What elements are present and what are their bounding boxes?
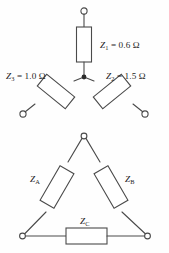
delta-label-zb: ZB xyxy=(125,174,135,185)
delta-terminal-bottom-left[interactable] xyxy=(20,233,26,239)
delta-wire-za-upper xyxy=(68,138,82,162)
delta-network: ZA ZB ZC xyxy=(20,133,151,244)
wye-resistor-z1[interactable] xyxy=(77,27,92,62)
delta-branch-za: ZA xyxy=(25,138,82,233)
delta-terminal-bottom-right[interactable] xyxy=(145,233,151,239)
wye-terminal-top[interactable] xyxy=(81,8,87,14)
wye-branch-z3: Z3 = 1.0 Ω xyxy=(6,71,84,117)
delta-resistor-za[interactable] xyxy=(40,166,74,209)
wye-label-z2: Z2 = 1.5 Ω xyxy=(106,71,146,82)
delta-wire-za-lower xyxy=(25,212,46,234)
delta-label-za: ZA xyxy=(30,174,40,185)
delta-label-zc: ZC xyxy=(80,216,90,227)
wye-network: Z1 = 0.6 Ω Z3 = 1.0 Ω Z2 = 1 xyxy=(6,8,148,117)
circuit-figure: Z1 = 0.6 Ω Z3 = 1.0 Ω Z2 = 1 xyxy=(0,0,169,253)
delta-wire-zb-upper xyxy=(86,138,100,162)
wye-wire-right-outer xyxy=(133,104,143,112)
wye-branch-z1: Z1 = 0.6 Ω xyxy=(77,8,140,77)
delta-resistor-zb[interactable] xyxy=(94,166,128,209)
delta-branch-zc: ZC xyxy=(25,216,145,244)
wye-wire-left-outer xyxy=(25,104,35,112)
delta-resistor-zc[interactable] xyxy=(66,228,107,244)
delta-branch-zb: ZB xyxy=(86,138,145,233)
wye-center-node xyxy=(82,75,87,80)
wye-label-z1: Z1 = 0.6 Ω xyxy=(100,40,140,51)
wye-branch-z2: Z2 = 1.5 Ω xyxy=(84,71,148,117)
wye-label-z3: Z3 = 1.0 Ω xyxy=(6,71,46,82)
delta-wire-zb-lower xyxy=(122,212,145,234)
